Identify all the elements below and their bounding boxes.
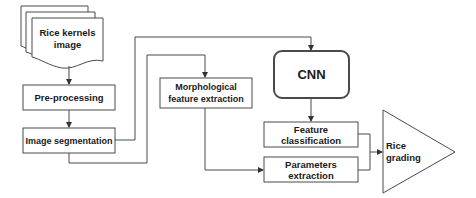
morph-label: Morphological feature extraction	[160, 78, 252, 108]
params-label: Parameters extraction	[264, 157, 358, 182]
preprocessing-label: Pre-processing	[23, 85, 115, 110]
cnn-label: CNN	[274, 51, 349, 98]
grading-label: Rice grading	[386, 138, 426, 166]
input-label: Rice kernels image	[32, 24, 103, 54]
classification-label: Feature classification	[264, 122, 358, 147]
segmentation-label: Image segmentation	[23, 128, 115, 153]
